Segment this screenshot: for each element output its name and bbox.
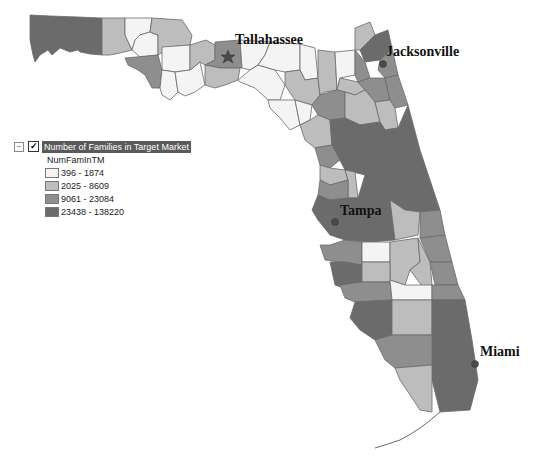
county	[432, 300, 478, 412]
swatch-class-4	[45, 207, 59, 217]
county	[420, 210, 445, 238]
city-label: Tampa	[340, 203, 382, 218]
county	[330, 118, 385, 175]
florida-county-map: Tallahassee Jacksonville Tampa Miami	[0, 0, 536, 461]
swatch-class-1	[45, 168, 59, 178]
class-label: 396 - 1874	[61, 168, 104, 178]
legend-field-name: NumFamInTM	[47, 153, 191, 166]
class-label: 2025 - 8609	[61, 181, 109, 191]
city-label: Tallahassee	[235, 32, 303, 47]
county	[400, 178, 440, 212]
county	[30, 15, 50, 62]
class-label: 23438 - 138220	[61, 207, 124, 217]
county	[340, 282, 392, 302]
county	[48, 16, 78, 55]
county	[430, 262, 458, 285]
layer-visibility-checkbox[interactable]: ✓	[28, 141, 39, 152]
dot-icon	[380, 61, 387, 68]
legend-class: 396 - 1874	[45, 166, 191, 179]
county	[318, 50, 337, 95]
county	[392, 300, 432, 335]
legend-class: 9061 - 23084	[45, 192, 191, 205]
county	[162, 45, 190, 72]
class-label: 9061 - 23084	[61, 194, 114, 204]
florida-keys	[375, 412, 440, 448]
county	[205, 65, 240, 88]
swatch-class-2	[45, 181, 59, 191]
county	[432, 285, 465, 300]
map-legend: − ✓ Number of Families in Target Market …	[14, 140, 191, 218]
county	[350, 300, 392, 340]
county	[268, 100, 300, 130]
county	[320, 240, 362, 265]
legend-layer-row: − ✓ Number of Families in Target Market	[14, 140, 191, 153]
collapse-icon[interactable]: −	[14, 142, 24, 152]
county	[78, 17, 102, 55]
city-label: Miami	[480, 344, 520, 359]
legend-class: 2025 - 8609	[45, 179, 191, 192]
layer-title[interactable]: Number of Families in Target Market	[42, 141, 191, 153]
legend-class: 23438 - 138220	[45, 205, 191, 218]
city-miami[interactable]: Miami	[472, 344, 520, 368]
swatch-class-3	[45, 194, 59, 204]
dot-icon	[332, 219, 339, 226]
county	[362, 242, 390, 262]
county	[375, 335, 432, 368]
city-label: Jacksonville	[386, 44, 459, 59]
county	[395, 365, 432, 412]
county	[125, 55, 162, 88]
county	[362, 262, 390, 282]
dot-icon	[472, 361, 479, 368]
